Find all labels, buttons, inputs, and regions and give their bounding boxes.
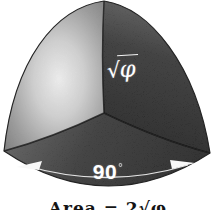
arc-angle-value: 90 bbox=[93, 160, 117, 183]
figure-caption: Area = 2√φ bbox=[0, 198, 216, 210]
figure: √φ 90° Area = 2√φ bbox=[0, 0, 216, 210]
arc-angle-label: 90° bbox=[84, 160, 132, 184]
degree-mark: ° bbox=[118, 161, 123, 173]
phi-symbol: φ bbox=[117, 54, 139, 82]
edge-length-label: √φ bbox=[106, 55, 139, 83]
